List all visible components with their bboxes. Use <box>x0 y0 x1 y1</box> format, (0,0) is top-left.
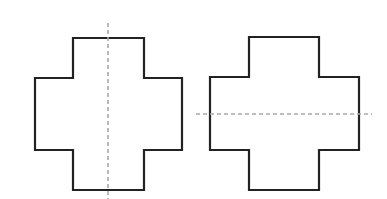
right-cross-figure <box>196 37 372 190</box>
left-cross-figure <box>35 23 182 199</box>
symmetry-diagram <box>0 0 387 199</box>
